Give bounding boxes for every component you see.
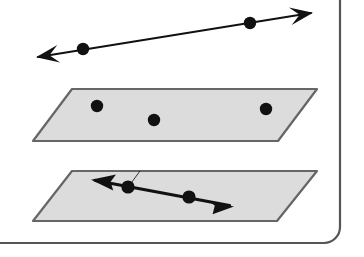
upper-plane-point-2 xyxy=(148,114,160,126)
upper-plane-shape xyxy=(33,89,317,141)
lower-plane-point-1 xyxy=(121,180,134,193)
upper-plane-point-1 xyxy=(91,100,103,112)
upper-plane-group xyxy=(33,89,317,141)
top-line-point-1 xyxy=(77,43,89,55)
geometry-figure xyxy=(0,0,364,257)
top-line-point-2 xyxy=(244,17,256,29)
upper-plane-point-3 xyxy=(260,103,272,115)
lower-plane-point-2 xyxy=(182,190,195,203)
lower-plane-group xyxy=(33,171,317,221)
geometry-diagram-svg xyxy=(0,0,364,257)
